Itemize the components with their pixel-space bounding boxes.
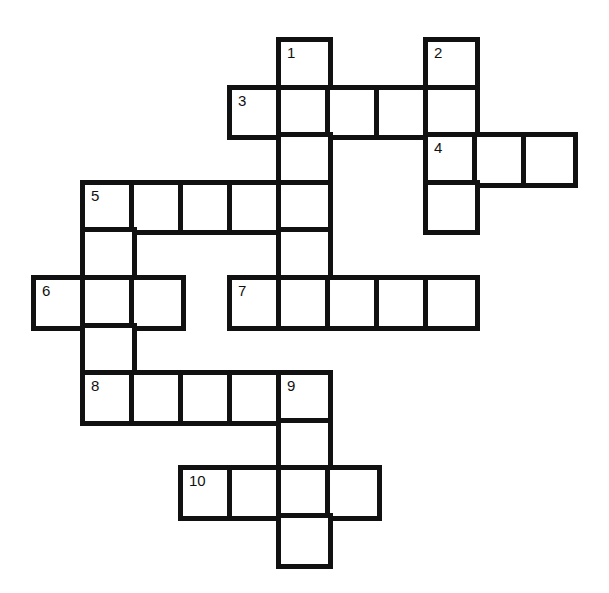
crossword-cell[interactable]: 9 <box>280 374 329 422</box>
clue-number: 2 <box>434 45 442 60</box>
crossword-cell[interactable] <box>378 279 427 327</box>
crossword-cell[interactable] <box>84 231 133 279</box>
crossword-cell[interactable] <box>231 469 280 517</box>
crossword-cell[interactable] <box>476 136 525 184</box>
clue-number: 3 <box>238 93 246 108</box>
crossword-cell[interactable]: 1 <box>280 41 329 89</box>
crossword-cell[interactable]: 6 <box>35 279 84 327</box>
crossword-cell[interactable] <box>427 279 476 327</box>
clue-number: 5 <box>91 188 99 203</box>
crossword-grid: 12345678910 <box>0 0 609 593</box>
crossword-cell[interactable]: 7 <box>231 279 280 327</box>
crossword-cell[interactable]: 4 <box>427 136 476 184</box>
crossword-cell[interactable] <box>231 374 280 422</box>
crossword-cell[interactable] <box>133 374 182 422</box>
crossword-cell[interactable] <box>378 89 427 137</box>
crossword-cell[interactable] <box>84 327 133 375</box>
crossword-cell[interactable] <box>133 279 182 327</box>
crossword-cell[interactable]: 8 <box>84 374 133 422</box>
crossword-cell[interactable] <box>231 184 280 232</box>
crossword-cell[interactable] <box>280 231 329 279</box>
clue-number: 6 <box>42 283 50 298</box>
crossword-cell[interactable] <box>84 279 133 327</box>
crossword-cell[interactable]: 3 <box>231 89 280 137</box>
clue-number: 10 <box>189 473 206 488</box>
crossword-cell[interactable] <box>133 184 182 232</box>
crossword-cell[interactable] <box>427 184 476 232</box>
crossword-cell[interactable] <box>329 89 378 137</box>
crossword-cell[interactable] <box>280 136 329 184</box>
crossword-cell[interactable] <box>280 422 329 470</box>
crossword-cell[interactable] <box>427 89 476 137</box>
clue-number: 7 <box>238 283 246 298</box>
crossword-cell[interactable] <box>329 279 378 327</box>
crossword-cell[interactable] <box>525 136 574 184</box>
clue-number: 4 <box>434 140 442 155</box>
crossword-cell[interactable] <box>280 469 329 517</box>
crossword-cell[interactable] <box>329 469 378 517</box>
crossword-cell[interactable] <box>280 517 329 565</box>
crossword-cell[interactable] <box>280 279 329 327</box>
crossword-cell[interactable] <box>182 374 231 422</box>
clue-number: 1 <box>287 45 295 60</box>
crossword-cell[interactable] <box>280 89 329 137</box>
clue-number: 9 <box>287 378 295 393</box>
crossword-cell[interactable] <box>182 184 231 232</box>
clue-number: 8 <box>91 378 99 393</box>
crossword-cell[interactable]: 10 <box>182 469 231 517</box>
crossword-cell[interactable]: 5 <box>84 184 133 232</box>
crossword-cell[interactable] <box>280 184 329 232</box>
crossword-cell[interactable]: 2 <box>427 41 476 89</box>
